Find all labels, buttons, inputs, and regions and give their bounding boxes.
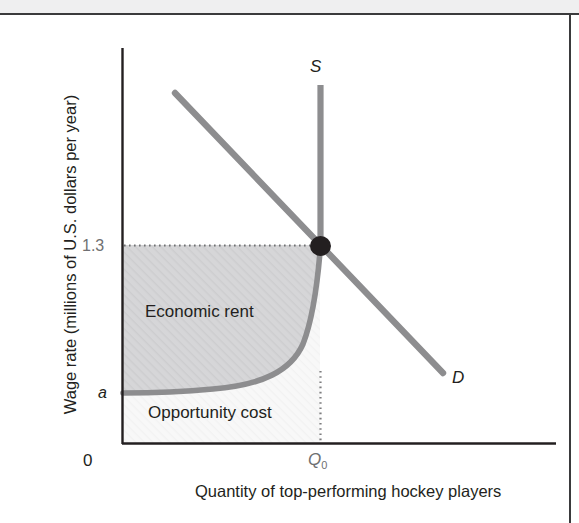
y-axis-title: Wage rate (millions of U.S. dollars per … [61,55,80,455]
x-tick-q0-base: Q [308,450,321,469]
y-tick-label-a: a [98,385,107,401]
opportunity-cost-label: Opportunity cost [148,404,272,421]
economic-rent-label: Economic rent [145,303,254,320]
supply-curve-label: S [310,58,321,75]
y-tick-label-1-3: 1.3 [82,238,104,254]
x-tick-label-q0: Q0 [308,451,327,471]
equilibrium-point-marker [310,236,331,256]
origin-label-zero: 0 [83,452,92,469]
demand-curve-label: D [452,369,464,386]
x-axis-title: Quantity of top-performing hockey player… [195,482,501,501]
economics-figure: Wage rate (millions of U.S. dollars per … [0,0,579,523]
chart-plot-area [0,0,579,523]
x-tick-q0-subscript: 0 [321,459,327,471]
